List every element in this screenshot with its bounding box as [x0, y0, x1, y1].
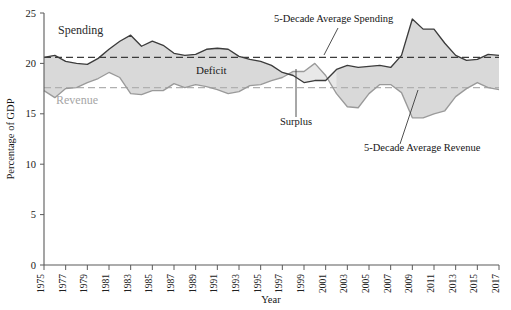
x-tick-label: 2015	[469, 274, 479, 293]
x-tick-label: 2001	[318, 274, 328, 293]
x-tick-label: 2003	[339, 274, 349, 293]
y-tick-label: 5	[31, 209, 36, 220]
x-tick-label: 2011	[426, 274, 436, 293]
x-tick-label: 2017	[491, 274, 501, 293]
x-tick-label: 1995	[253, 274, 263, 293]
y-tick-label: 0	[31, 260, 36, 271]
surplus-callout-label: Surplus	[280, 116, 312, 127]
x-axis-title: Year	[261, 294, 281, 305]
y-tick-label: 15	[26, 108, 37, 119]
x-tick-label: 1997	[274, 274, 284, 293]
y-axis-title: Percentage of GDP	[5, 98, 16, 179]
y-axis-tick-labels: 0510152025	[26, 8, 37, 271]
deficit-annotation-label: Deficit	[196, 64, 227, 76]
avg-revenue-callout-label: 5-Decade Average Revenue	[364, 142, 481, 153]
x-tick-label: 2009	[404, 274, 414, 293]
revenue-series-label: Revenue	[56, 93, 98, 107]
x-tick-label: 2007	[383, 274, 393, 293]
x-tick-label: 1983	[123, 274, 133, 293]
x-axis-tick-labels: 1975197719791981198319851987198919911993…	[36, 274, 501, 293]
avg-spending-callout-label: 5-Decade Average Spending	[274, 13, 394, 24]
chart-figure: 0510152025 19751977197919811983198519871…	[0, 0, 511, 310]
spending-series-label: Spending	[58, 23, 103, 37]
x-tick-label: 1999	[296, 274, 306, 293]
x-tick-label: 2013	[448, 274, 458, 293]
x-tick-label: 1993	[231, 274, 241, 293]
budget-area-chart: 0510152025 19751977197919811983198519871…	[0, 0, 511, 310]
y-tick-label: 10	[26, 159, 37, 170]
x-tick-label: 1991	[209, 274, 219, 293]
x-tick-label: 1981	[101, 274, 111, 293]
x-tick-label: 1989	[188, 274, 198, 293]
y-axis-ticks	[40, 13, 44, 265]
x-axis-ticks	[44, 265, 499, 270]
x-tick-label: 1975	[36, 274, 46, 293]
x-tick-label: 1985	[144, 274, 154, 293]
x-tick-label: 1979	[79, 274, 89, 293]
x-tick-label: 1987	[166, 274, 176, 293]
y-tick-label: 20	[26, 58, 37, 69]
y-tick-label: 25	[26, 8, 37, 19]
x-tick-label: 2005	[361, 274, 371, 293]
x-tick-label: 1977	[58, 274, 68, 293]
